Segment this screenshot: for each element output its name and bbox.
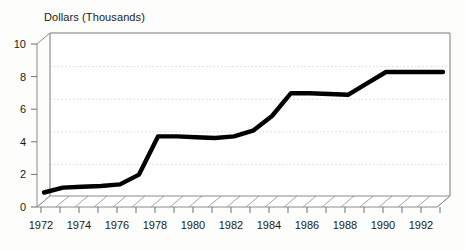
x-tick-label-1972: 1972 bbox=[21, 219, 61, 231]
y-tick-label-0: 0 bbox=[4, 201, 26, 213]
x-tick-label-1982: 1982 bbox=[211, 219, 251, 231]
x-tick-label-1992: 1992 bbox=[401, 219, 441, 231]
y-axis-ticks bbox=[31, 44, 37, 207]
y-tick-label-6: 6 bbox=[4, 103, 26, 115]
x-tick-label-1986: 1986 bbox=[287, 219, 327, 231]
chart-container: Dollars (Thousands) bbox=[0, 0, 465, 250]
chart-plot-area bbox=[0, 0, 465, 250]
y-tick-label-4: 4 bbox=[4, 136, 26, 148]
x-axis-ticks bbox=[41, 207, 440, 213]
x-tick-label-1980: 1980 bbox=[173, 219, 213, 231]
y-tick-label-2: 2 bbox=[4, 168, 26, 180]
x-tick-label-1984: 1984 bbox=[249, 219, 289, 231]
y-tick-label-8: 8 bbox=[4, 71, 26, 83]
y-tick-label-10: 10 bbox=[4, 38, 26, 50]
x-tick-label-1990: 1990 bbox=[363, 219, 403, 231]
back-wall bbox=[50, 33, 450, 196]
x-tick-label-1976: 1976 bbox=[97, 219, 137, 231]
x-tick-label-1974: 1974 bbox=[59, 219, 99, 231]
x-tick-label-1988: 1988 bbox=[325, 219, 365, 231]
x-tick-label-1978: 1978 bbox=[135, 219, 175, 231]
floor-panel bbox=[37, 196, 450, 207]
